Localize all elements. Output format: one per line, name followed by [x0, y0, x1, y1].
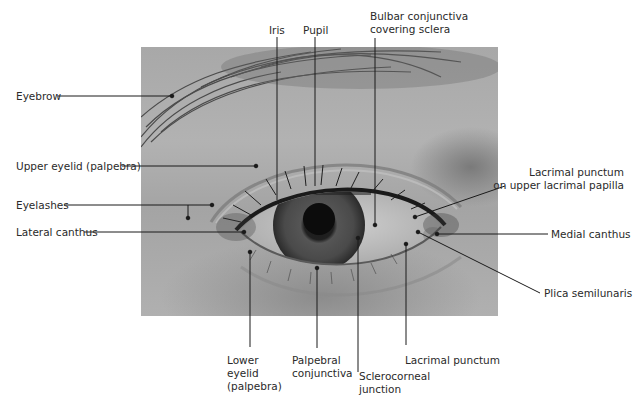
label-lateral-canthus: Lateral canthus — [16, 226, 98, 239]
label-eyelashes: Eyelashes — [16, 199, 69, 212]
label-palpebral-conjunctiva: Palpebral conjunctiva — [292, 354, 353, 380]
label-upper-eyelid: Upper eyelid (palpebra) — [16, 160, 141, 173]
eye-photograph — [141, 47, 498, 316]
label-bulbar-conjunctiva: Bulbar conjunctiva covering sclera — [370, 10, 468, 36]
label-sclerocorneal-junction: Sclerocorneal junction — [359, 370, 430, 396]
label-lacrimal-punctum-upper: Lacrimal punctum on upper lacrimal papil… — [493, 166, 624, 192]
label-pupil: Pupil — [303, 24, 328, 37]
label-plica-semilunaris: Plica semilunaris — [544, 287, 632, 300]
label-iris: Iris — [269, 24, 285, 37]
label-medial-canthus: Medial canthus — [551, 228, 631, 241]
label-lower-eyelid: Lower eyelid (palpebra) — [227, 354, 282, 393]
label-eyebrow: Eyebrow — [16, 90, 61, 103]
eye-illustration — [141, 47, 498, 316]
label-lacrimal-punctum: Lacrimal punctum — [405, 354, 500, 367]
